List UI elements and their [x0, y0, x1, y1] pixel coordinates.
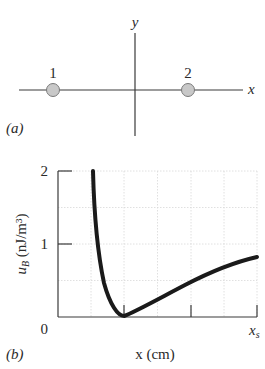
- grid: [58, 171, 257, 317]
- panel-b: 2 1 0 xs x (cm) uB (nJ/m³) (b): [6, 163, 260, 363]
- y-axis-title: uB (nJ/m³): [13, 213, 31, 274]
- y-tick-1: 1: [41, 236, 49, 252]
- particle-1-label: 1: [49, 65, 57, 81]
- particle-1: [47, 84, 60, 97]
- x-axis-title: x (cm): [135, 346, 175, 363]
- x-end-label: xs: [248, 322, 260, 340]
- particle-2: [182, 84, 195, 97]
- y-axis-label: y: [130, 14, 139, 30]
- figure: 1 2 x y (a) 2: [0, 0, 265, 369]
- panel-a: 1 2 x y (a): [6, 14, 255, 137]
- panel-a-label: (a): [6, 120, 24, 137]
- x-axis-label: x: [247, 81, 255, 97]
- y-tick-0: 0: [41, 321, 49, 337]
- particle-2-label: 2: [184, 65, 192, 81]
- panel-b-label: (b): [6, 346, 24, 363]
- y-tick-2: 2: [41, 163, 49, 179]
- energy-density-curve: [93, 171, 257, 316]
